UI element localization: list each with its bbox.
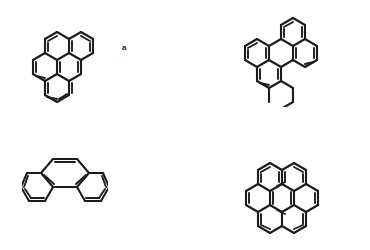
structure-figure-grid: a — [0, 0, 370, 250]
structure-panel-coronene: d — [185, 125, 370, 250]
panel-label-a: a — [122, 44, 126, 52]
phenanthrene-double-bond-marks — [24, 162, 106, 198]
phenanthrene-structure — [22, 153, 108, 215]
structure-panel-pyrene: a — [0, 0, 185, 125]
perylene-bond-skeleton — [245, 18, 317, 107]
structure-panel-phenanthrene: c — [0, 125, 185, 250]
structure-panel-perylene: b — [185, 0, 370, 125]
perylene-structure — [233, 12, 328, 107]
pyrene-structure — [26, 20, 112, 106]
phenanthrene-bond-skeleton — [22, 159, 108, 201]
coronene-structure — [237, 152, 327, 244]
coronene-bond-skeleton — [246, 163, 318, 233]
pyrene-bond-skeleton — [33, 32, 93, 102]
